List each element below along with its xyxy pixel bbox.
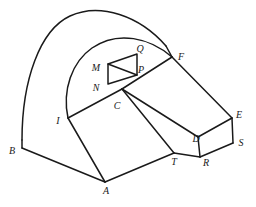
vertex-label-B: B: [9, 146, 15, 156]
opening-diagonal-MP: [108, 64, 137, 75]
vertex-label-C: C: [114, 101, 121, 111]
vertex-label-Q: Q: [136, 44, 143, 54]
box-edge-R-S: [200, 143, 233, 157]
roof-edge-C-D: [122, 89, 198, 137]
vertex-label-I: I: [56, 116, 59, 126]
vertex-label-T: T: [171, 157, 177, 167]
vertex-label-A: A: [103, 186, 109, 196]
vertex-label-F: F: [178, 52, 184, 62]
base-edge-T-R: [174, 153, 200, 157]
base-front-left-edge: [22, 148, 105, 182]
vertex-label-E: E: [236, 110, 242, 120]
figure-root: Q F M P N E C I D S B T R A: [0, 0, 256, 207]
roof-edge-D-E: [198, 118, 232, 137]
vertex-label-N: N: [93, 83, 100, 93]
isometric-drawing-svg: [0, 0, 256, 207]
front-face-edge-C-T: [122, 89, 174, 153]
vertex-label-M: M: [92, 63, 100, 73]
base-front-right-edge: [105, 153, 174, 182]
vertex-label-D: D: [192, 134, 199, 144]
vertex-label-P: P: [138, 65, 144, 75]
ridge-edge-C-F: [122, 57, 172, 89]
roof-edge-F-E: [172, 57, 232, 118]
vertex-label-S: S: [239, 138, 244, 148]
vertex-label-R: R: [203, 158, 209, 168]
slope-left-edge-I-A: [68, 118, 105, 182]
box-edge-E-S: [232, 118, 233, 143]
